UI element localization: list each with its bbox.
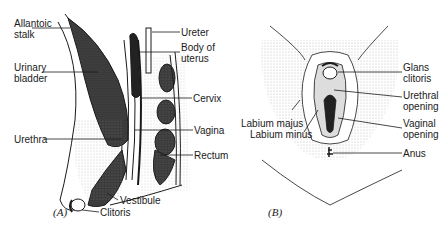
label-ureter: Ureter [181, 27, 209, 38]
label-vestibule: Vestibule [120, 195, 161, 206]
label-urethra: Urethra [14, 134, 47, 145]
label-labium-minus: Labium minus [250, 129, 312, 140]
label-clitoris: Clitoris [100, 207, 131, 218]
label-vaginal-opening-2: opening [403, 129, 439, 140]
label-cervix: Cervix [193, 93, 221, 104]
label-body-of-uterus-2: uterus [181, 53, 209, 64]
label-body-of-uterus-1: Body of [181, 42, 215, 53]
panel-a-drawing [58, 14, 190, 212]
label-labium-majus: Labium majus [241, 118, 303, 129]
label-anus: Anus [403, 148, 426, 159]
label-glans-clitoris-1: Glans [403, 62, 429, 73]
label-urinary-bladder-1: Urinary [14, 62, 46, 73]
label-urethral-opening-1: Urethral [403, 90, 439, 101]
label-allantoic-stalk-1: Allantoic [14, 18, 52, 29]
label-allantoic-stalk-2: stalk [14, 29, 35, 40]
caption-panel-a: (A) [53, 206, 67, 218]
label-rectum: Rectum [194, 150, 228, 161]
caption-panel-b: (B) [268, 206, 282, 218]
panel-b-drawing [261, 26, 402, 205]
label-vaginal-opening-1: Vaginal [403, 118, 436, 129]
label-urinary-bladder-2: bladder [14, 73, 47, 84]
label-vagina: Vagina [194, 125, 224, 136]
label-glans-clitoris-2: clitoris [403, 73, 431, 84]
label-urethral-opening-2: opening [403, 101, 439, 112]
diagram-drawing [0, 0, 448, 231]
